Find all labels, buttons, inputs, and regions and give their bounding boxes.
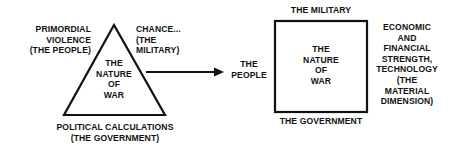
square-center-label: THE NATURE OF WAR [291,44,351,86]
chance-label: CHANCE... (THE MILITARY) [136,24,181,56]
the-military-label: THE MILITARY [271,5,371,16]
primordial-violence-label: PRIMORDIAL VIOLENCE (THE PEOPLE) [30,24,91,56]
triangle-center-label: THE NATURE OF WAR [84,58,144,100]
material-dimension-label: ECONOMIC AND FINANCIAL STRENGTH, TECHNOL… [368,22,446,107]
the-people-label: THE PEOPLE [226,59,272,80]
right-arrow-icon [146,68,224,77]
the-government-label: THE GOVERNMENT [266,116,376,127]
political-calculations-label: POLITICAL CALCULATIONS (THE GOVERNMENT) [38,122,192,143]
